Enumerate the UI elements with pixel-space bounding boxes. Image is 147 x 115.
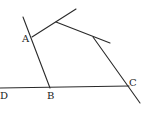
segment-p2-c	[93, 37, 140, 103]
segment-a-p1	[32, 9, 76, 37]
label-c: C	[129, 77, 137, 88]
label-d: D	[0, 90, 8, 101]
label-a: A	[21, 33, 30, 44]
label-b: B	[47, 90, 54, 101]
segment-p1-p2	[56, 22, 110, 43]
geometry-diagram: A B C D	[0, 0, 147, 115]
line-dbc	[0, 86, 129, 88]
